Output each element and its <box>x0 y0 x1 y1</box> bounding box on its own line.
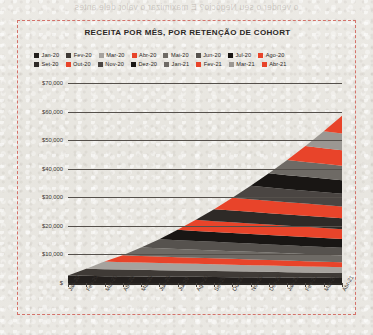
legend-swatch-icon <box>98 62 103 67</box>
legend-swatch-icon <box>164 62 169 67</box>
plot-area <box>68 83 342 283</box>
legend-swatch-icon <box>99 53 104 58</box>
legend-item-label: Nov-20 <box>105 61 124 67</box>
y-axis-tick-label: $10,000 <box>42 251 63 257</box>
chart-title: RECEITA POR MÊS, POR RETENÇÃO DE COHORT <box>18 28 357 37</box>
legend-item[interactable]: Fev-21 <box>196 61 222 67</box>
x-axis-tick-label: Abr-21 <box>341 274 355 292</box>
gridline <box>68 83 342 84</box>
legend-item-label: Mar-20 <box>106 52 124 58</box>
gridline <box>68 112 342 113</box>
legend-swatch-icon <box>163 53 168 58</box>
page-bleed-text: o vender o seu Negócio? E maximizar o va… <box>0 2 373 18</box>
y-axis-tick-label: $40,000 <box>42 166 63 172</box>
legend-swatch-icon <box>258 53 263 58</box>
legend-swatch-icon <box>131 62 136 67</box>
legend-swatch-icon <box>196 62 201 67</box>
legend-item-label: Jan-20 <box>42 52 60 58</box>
legend-item-label: Out-20 <box>73 61 91 67</box>
legend-item[interactable]: Abr-21 <box>262 61 287 67</box>
legend-item-label: Abr-21 <box>269 61 286 67</box>
legend-swatch-icon <box>229 62 234 67</box>
gridline <box>68 140 342 141</box>
legend-item[interactable]: Mar-21 <box>229 61 255 67</box>
legend-item[interactable]: Out-20 <box>66 61 91 67</box>
y-axis-tick-label: $30,000 <box>42 194 63 200</box>
legend-item-label: Dez-20 <box>138 61 157 67</box>
legend-swatch-icon <box>34 62 39 67</box>
legend-item[interactable]: Ago-20 <box>258 52 284 58</box>
legend-item[interactable]: Mai-20 <box>163 52 188 58</box>
gridline <box>68 254 342 255</box>
chart-frame: RECEITA POR MÊS, POR RETENÇÃO DE COHORT … <box>17 20 356 315</box>
legend-item[interactable]: Jan-21 <box>164 61 189 67</box>
y-axis: $70,000$60,000$50,000$40,000$30,000$20,0… <box>18 83 66 283</box>
legend-item[interactable]: Fev-20 <box>66 52 92 58</box>
legend-item[interactable]: Jan-20 <box>34 52 59 58</box>
legend-row: Set-20Out-20Nov-20Dez-20Jan-21Fev-21Mar-… <box>34 61 342 67</box>
legend-item-label: Fev-20 <box>74 52 92 58</box>
legend-swatch-icon <box>66 62 71 67</box>
plot-wrapper: $70,000$60,000$50,000$40,000$30,000$20,0… <box>18 83 357 316</box>
legend-item[interactable]: Nov-20 <box>98 61 124 67</box>
y-axis-tick-label: $50,000 <box>42 137 63 143</box>
legend-item[interactable]: Jul-20 <box>228 52 251 58</box>
legend-item-label: Jan-21 <box>172 61 190 67</box>
legend-swatch-icon <box>262 62 267 67</box>
legend-item[interactable]: Dez-20 <box>131 61 157 67</box>
legend-item-label: Jun-20 <box>203 52 221 58</box>
chart-legend: Jan-20Fev-20Mar-20Abr-20Mai-20Jun-20Jul-… <box>34 52 342 70</box>
legend-swatch-icon <box>66 53 71 58</box>
legend-swatch-icon <box>132 53 137 58</box>
legend-row: Jan-20Fev-20Mar-20Abr-20Mai-20Jun-20Jul-… <box>34 52 342 58</box>
legend-item[interactable]: Jun-20 <box>196 52 221 58</box>
legend-swatch-icon <box>196 53 201 58</box>
legend-item-label: Ago-20 <box>266 52 285 58</box>
gridline <box>68 169 342 170</box>
legend-item[interactable]: Abr-20 <box>132 52 157 58</box>
legend-swatch-icon <box>228 53 233 58</box>
legend-item[interactable]: Mar-20 <box>99 52 125 58</box>
y-axis-tick-label: $60,000 <box>42 109 63 115</box>
gridline <box>68 226 342 227</box>
legend-item-label: Mai-20 <box>171 52 189 58</box>
legend-item-label: Jul-20 <box>235 52 251 58</box>
legend-item-label: Abr-20 <box>139 52 156 58</box>
legend-item[interactable]: Set-20 <box>34 61 59 67</box>
legend-item-label: Fev-21 <box>204 61 222 67</box>
legend-swatch-icon <box>34 53 39 58</box>
y-axis-tick-label: $ <box>60 280 63 286</box>
stacked-area-svg <box>68 83 342 283</box>
y-axis-tick-label: $20,000 <box>42 223 63 229</box>
gridline <box>68 197 342 198</box>
legend-item-label: Mar-21 <box>236 61 254 67</box>
y-axis-tick-label: $70,000 <box>42 80 63 86</box>
legend-item-label: Set-20 <box>42 61 59 67</box>
